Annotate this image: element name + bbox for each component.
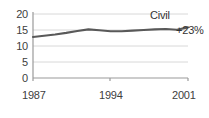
x-tick-1994: 1994 <box>99 89 123 101</box>
x-tick-2001: 2001 <box>172 89 196 101</box>
series-line-civil <box>33 27 188 37</box>
line-chart: 20 15 10 5 0 1987 1994 2001 Civil +23% <box>0 0 209 118</box>
y-tick-20: 20 <box>4 8 28 20</box>
x-tick-1987: 1987 <box>22 89 46 101</box>
y-tick-15: 15 <box>4 24 28 36</box>
y-tick-0: 0 <box>4 72 28 84</box>
series-label-civil: Civil <box>150 9 170 21</box>
change-callout: +23% <box>176 24 204 36</box>
y-tick-10: 10 <box>4 40 28 52</box>
y-tick-5: 5 <box>4 56 28 68</box>
gridlines <box>33 14 188 62</box>
